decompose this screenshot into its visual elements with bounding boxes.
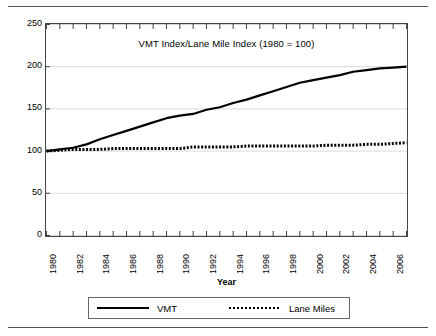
y-tick-label: 250 — [6, 19, 42, 28]
x-tick-label: 1992 — [209, 254, 218, 274]
y-tick-label: 200 — [6, 61, 42, 70]
x-tick-label: 1996 — [262, 254, 271, 274]
legend-swatch-solid-line-icon — [97, 303, 149, 313]
legend-label-vmt: VMT — [157, 303, 177, 314]
y-axis-tick-labels: 050100150200250 — [0, 0, 42, 336]
chart-canvas — [46, 24, 407, 236]
chart-title: VMT Index/Lane Mile Index (1980 = 100) — [45, 38, 408, 49]
y-tick-label: 100 — [6, 146, 42, 155]
x-tick-label: 2006 — [396, 254, 405, 274]
x-tick-label: 1988 — [156, 254, 165, 274]
x-tick-label: 1982 — [76, 254, 85, 274]
x-tick-label: 1994 — [236, 254, 245, 274]
x-tick-label: 2000 — [316, 254, 325, 274]
gridlines — [46, 25, 407, 236]
chart-legend: VMT Lane Miles — [88, 297, 350, 319]
y-axis-ticks-left — [46, 25, 50, 236]
x-tick-label: 1984 — [102, 254, 111, 274]
x-tick-label: 1998 — [289, 254, 298, 274]
x-tick-label: 1990 — [182, 254, 191, 274]
legend-label-lane-miles: Lane Miles — [289, 303, 335, 314]
y-tick-label: 150 — [6, 103, 42, 112]
x-axis-tick-labels: 1980198219841986198819901992199419961998… — [45, 240, 408, 280]
top-divider-rule — [8, 6, 428, 7]
legend-entry-lane-miles[interactable]: Lane Miles — [229, 298, 335, 318]
series-line-lane-miles — [47, 143, 407, 151]
legend-entry-vmt[interactable]: VMT — [97, 298, 177, 318]
x-tick-label: 2004 — [369, 254, 378, 274]
figure: 050100150200250 VMT Index/Lane Mile Inde… — [0, 0, 436, 336]
x-axis-title: Year — [45, 277, 408, 287]
x-tick-label: 1986 — [129, 254, 138, 274]
y-tick-label: 50 — [6, 188, 42, 197]
bottom-divider-rule — [8, 327, 428, 328]
plot-area — [45, 23, 408, 237]
x-tick-label: 1980 — [49, 254, 58, 274]
x-tick-label: 2002 — [342, 254, 351, 274]
y-tick-label: 0 — [6, 230, 42, 239]
legend-swatch-dotted-line-icon — [229, 303, 281, 313]
